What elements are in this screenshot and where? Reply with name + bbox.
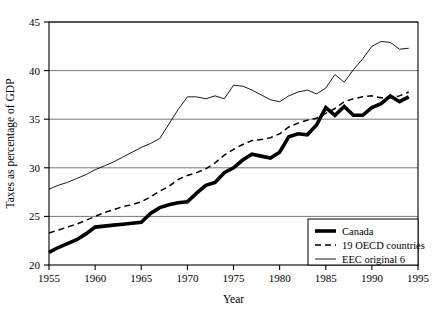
x-axis-tick-labels: 195519601965197019751980198519901995 bbox=[38, 272, 430, 284]
x-tick-label-1995: 1995 bbox=[407, 272, 430, 284]
y-tick-label-35: 35 bbox=[29, 113, 41, 125]
y-tick-label-25: 25 bbox=[29, 210, 41, 222]
x-tick-label-1965: 1965 bbox=[130, 272, 153, 284]
y-tick-label-30: 30 bbox=[29, 162, 41, 174]
chart-container: 202530354045 195519601965197019751980198… bbox=[0, 0, 438, 312]
x-tick-label-1960: 1960 bbox=[84, 272, 107, 284]
y-tick-label-45: 45 bbox=[29, 16, 41, 28]
x-tick-label-1985: 1985 bbox=[315, 272, 338, 284]
series-line-19-oecd-countries bbox=[49, 92, 409, 233]
legend-label-19-oecd-countries: 19 OECD countries bbox=[342, 240, 425, 251]
legend-label-eec-original-6: EEC original 6 bbox=[342, 254, 405, 265]
x-tick-label-1975: 1975 bbox=[223, 272, 246, 284]
x-tick-label-1970: 1970 bbox=[176, 272, 199, 284]
legend-label-canada: Canada bbox=[342, 226, 374, 237]
x-tick-label-1955: 1955 bbox=[38, 272, 61, 284]
x-tick-label-1980: 1980 bbox=[269, 272, 292, 284]
y-tick-label-20: 20 bbox=[29, 259, 41, 271]
y-axis-tick-labels: 202530354045 bbox=[29, 16, 41, 271]
x-axis-title: Year bbox=[223, 293, 244, 305]
tax-gdp-line-chart: 202530354045 195519601965197019751980198… bbox=[0, 0, 438, 312]
x-axis-ticks bbox=[49, 265, 418, 270]
x-tick-label-1990: 1990 bbox=[361, 272, 384, 284]
y-tick-label-40: 40 bbox=[29, 65, 41, 77]
chart-legend: Canada19 OECD countriesEEC original 6 bbox=[308, 219, 425, 265]
y-axis-ticks bbox=[44, 22, 49, 265]
y-axis-title: Taxes as percentage of GDP bbox=[4, 78, 17, 208]
gridlines bbox=[49, 22, 418, 216]
